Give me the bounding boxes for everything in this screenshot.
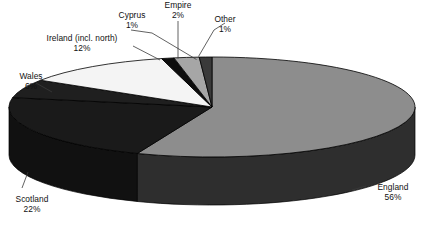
leader-line-ireland [133,46,160,60]
label-empire-name: Empire [142,0,214,10]
label-england-value: 56% [362,192,424,202]
label-cyprus-value: 1% [96,20,168,30]
label-scotland: Scotland 22% [0,194,64,214]
label-ireland: Ireland (incl. north) 12% [29,33,135,53]
label-wales: Wales 6% [0,71,62,91]
label-wales-value: 6% [0,81,62,91]
label-ireland-name: Ireland (incl. north) [29,33,135,43]
pie-top-slices [9,57,415,157]
label-scotland-name: Scotland [0,194,64,204]
label-england-name: England [362,182,424,192]
label-ireland-value: 12% [29,43,135,53]
label-scotland-value: 22% [0,204,64,214]
label-other-name: Other [194,14,256,24]
label-wales-name: Wales [0,71,62,81]
leader-line-cyprus [131,30,197,60]
pie-chart: Cyprus 1% Empire 2% Other 1% Ireland (in… [0,0,426,228]
label-england: England 56% [362,182,424,202]
label-other: Other 1% [194,14,256,34]
label-other-value: 1% [194,24,256,34]
